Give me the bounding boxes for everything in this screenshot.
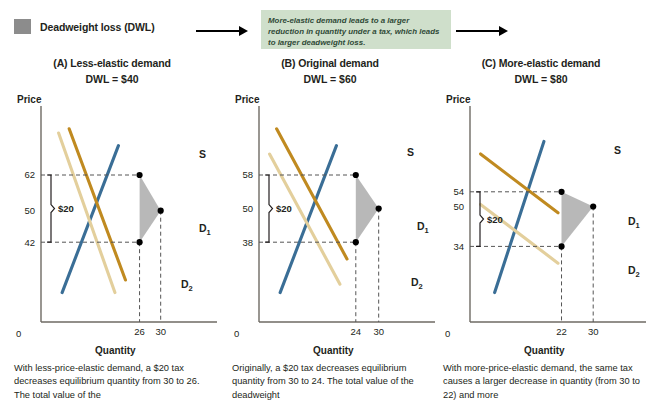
svg-text:34: 34 <box>453 241 464 252</box>
svg-text:26: 26 <box>134 326 145 337</box>
legend: Deadweight loss (DWL) <box>14 19 155 34</box>
panel-b-plot: Price Quantity 0 585038$202430SD1D2 <box>221 94 439 356</box>
svg-text:S: S <box>407 146 414 158</box>
panel-c-title: (C) More-elastic demand <box>432 57 650 69</box>
svg-text:$20: $20 <box>487 214 503 225</box>
arrow-right-icon <box>456 26 508 36</box>
legend-label: Deadweight loss (DWL) <box>40 21 155 33</box>
panel-c-plot: Price Quantity 0 545034$202230SD1D2 <box>432 94 650 356</box>
panel-a-title: (A) Less-elastic demand <box>3 57 221 69</box>
svg-text:$20: $20 <box>58 203 74 214</box>
dwl-color-swatch <box>14 19 31 34</box>
svg-text:D1: D1 <box>199 222 211 237</box>
panel-b-title: (B) Original demand <box>221 57 439 69</box>
svg-text:24: 24 <box>351 326 362 337</box>
svg-text:30: 30 <box>588 326 599 337</box>
svg-text:38: 38 <box>242 237 253 248</box>
svg-text:50: 50 <box>453 201 464 212</box>
panel-c-dwl: DWL = $80 <box>432 73 650 85</box>
panel-a-plot: Price Quantity 0 625042$202630SD1D2 <box>3 94 221 356</box>
svg-text:S: S <box>199 148 206 160</box>
svg-text:30: 30 <box>155 326 166 337</box>
panel-b: (B) Original demand DWL = $60 Price Quan… <box>221 57 439 356</box>
svg-text:22: 22 <box>556 326 567 337</box>
svg-text:42: 42 <box>24 237 35 248</box>
svg-text:30: 30 <box>373 326 384 337</box>
svg-text:62: 62 <box>24 169 35 180</box>
panel-c-caption: With more-price-elastic demand, the same… <box>443 362 643 402</box>
panel-a: (A) Less-elastic demand DWL = $40 Price … <box>3 57 221 356</box>
svg-text:D1: D1 <box>417 220 429 235</box>
panel-b-caption: Originally, a $20 tax decreases equilibr… <box>232 362 424 402</box>
svg-text:50: 50 <box>242 203 253 214</box>
svg-text:S: S <box>614 144 621 156</box>
callout-text: More-elastic demand leads to a larger re… <box>268 15 444 49</box>
svg-text:D2: D2 <box>181 278 193 293</box>
callout-box: More-elastic demand leads to a larger re… <box>261 10 451 49</box>
arrow-right-icon <box>196 26 248 36</box>
panel-b-dwl: DWL = $60 <box>221 73 439 85</box>
svg-text:D2: D2 <box>411 276 423 291</box>
svg-text:$20: $20 <box>276 203 292 214</box>
svg-text:58: 58 <box>242 169 253 180</box>
svg-text:50: 50 <box>24 205 35 216</box>
panel-a-dwl: DWL = $40 <box>3 73 221 85</box>
svg-text:D2: D2 <box>628 264 640 279</box>
panel-c: (C) More-elastic demand DWL = $80 Price … <box>432 57 650 356</box>
svg-text:D1: D1 <box>628 215 640 230</box>
panel-a-caption: With less-price-elastic demand, a $20 ta… <box>14 362 214 402</box>
svg-text:54: 54 <box>453 186 464 197</box>
